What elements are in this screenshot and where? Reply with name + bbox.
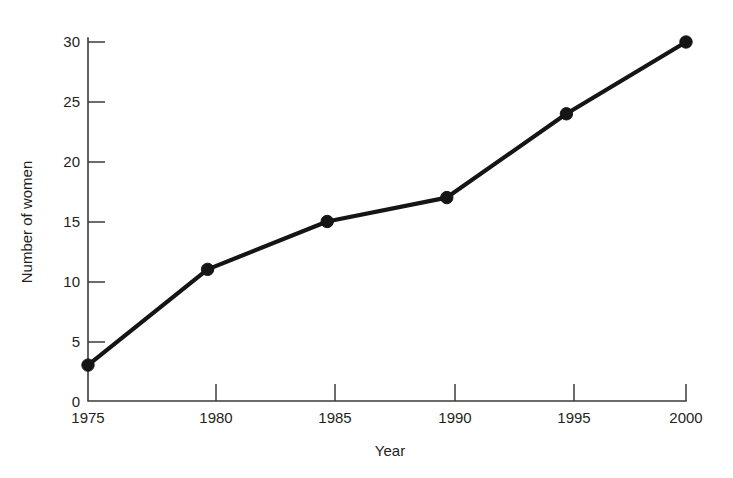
x-tick-label: 1980	[199, 409, 232, 426]
line-chart: 30 25 20 15 10 5 0 1975 1980 1985 1990 1…	[0, 0, 733, 478]
x-tick-label: 1990	[438, 409, 471, 426]
data-point	[441, 191, 453, 203]
y-tick-label: 10	[63, 273, 80, 290]
x-tick-label: 2000	[669, 409, 702, 426]
y-tick-label: 0	[72, 393, 80, 410]
data-point	[321, 215, 333, 227]
x-tick-label: 1995	[557, 409, 590, 426]
y-tick-label: 15	[63, 213, 80, 230]
y-tick-label: 20	[63, 153, 80, 170]
chart-background	[0, 0, 733, 478]
y-tick-label: 25	[63, 93, 80, 110]
x-tick-label: 1985	[318, 409, 351, 426]
x-tick-label: 1975	[71, 409, 104, 426]
x-axis-title: Year	[375, 442, 405, 459]
y-axis-title: Number of women	[18, 161, 35, 284]
data-point	[82, 359, 94, 371]
y-tick-label: 5	[72, 333, 80, 350]
data-point	[560, 108, 572, 120]
y-tick-label: 30	[63, 33, 80, 50]
data-point	[680, 36, 692, 48]
chart-plot-area: 30 25 20 15 10 5 0 1975 1980 1985 1990 1…	[0, 0, 733, 478]
data-point	[201, 263, 213, 275]
